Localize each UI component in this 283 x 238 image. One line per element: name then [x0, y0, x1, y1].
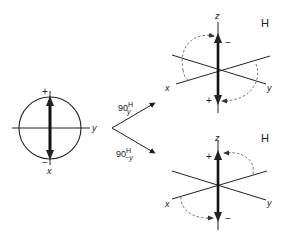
x-axis-label: x — [164, 83, 170, 93]
minus-label: − — [225, 37, 231, 48]
dashed-arc-lower — [181, 197, 210, 218]
plus-label: + — [42, 86, 48, 97]
pulse-label-minus-y: 90H−y — [116, 147, 133, 162]
pulse-arrows: 90Hy 90H−y — [112, 101, 153, 162]
plus-label: + — [206, 151, 212, 162]
minus-label: − — [225, 213, 231, 224]
top-right-frame: z H − + x y — [164, 11, 272, 113]
pulse-label-y: 90Hy — [118, 101, 133, 116]
x-axis-label: x — [46, 166, 52, 176]
z-axis-label: z — [214, 11, 220, 21]
nucleus-label: H — [261, 17, 269, 29]
plus-label: + — [206, 95, 212, 106]
diagram-canvas: + − y x 90Hy 90H−y z H − + x y — [0, 0, 283, 238]
x-axis-label: x — [164, 199, 170, 209]
left-vector-diagram: + − y x — [12, 86, 97, 176]
dashed-arc-upper — [182, 35, 214, 70]
y-axis-label: y — [266, 83, 272, 93]
dashed-arc-upper — [227, 153, 253, 174]
dashed-arc-lower — [224, 64, 258, 101]
y-axis-label: y — [91, 123, 97, 133]
z-axis-label: z — [214, 133, 220, 143]
bottom-right-frame: z H + − x y — [164, 132, 272, 230]
nucleus-label: H — [261, 132, 269, 144]
y-axis-label: y — [266, 198, 272, 208]
